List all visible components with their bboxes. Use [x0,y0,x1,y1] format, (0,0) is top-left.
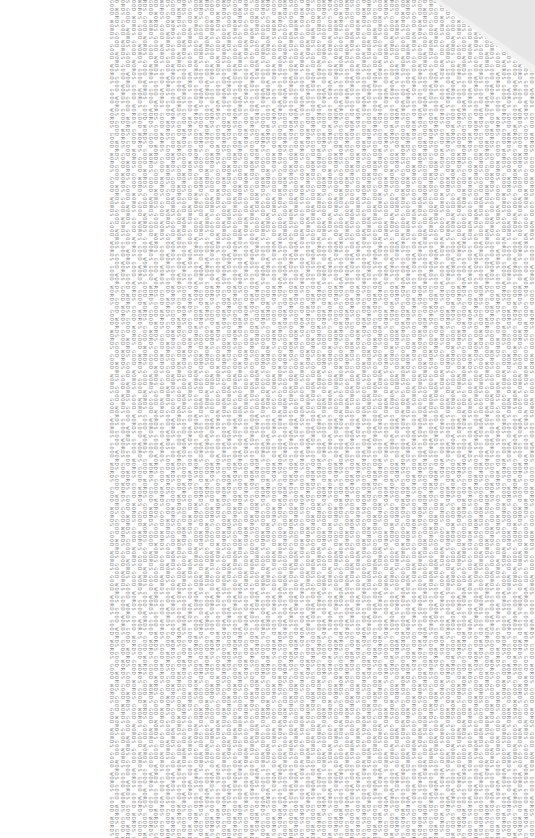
text-column: D WORDS GOOD WORDS GOOD WORDS GOOD WORDS… [298,0,304,838]
text-column: WORDS GOOD WORDS GOOD WORDS GOOD WORDS G… [382,0,388,838]
text-column: D WORDS GOOD WORDS GOOD WORDS GOOD WORDS… [114,0,120,838]
text-column: DS GOOD WORDS GOOD WORDS GOOD WORDS GOOD… [226,0,232,838]
text-column: RDS GOOD WORDS GOOD WORDS GOOD WORDS GOO… [450,0,456,838]
text-column: WORDS GOOD WORDS GOOD WORDS GOOD WORDS G… [282,0,288,838]
text-column: OOD WORDS GOOD WORDS GOOD WORDS GOOD WOR… [130,0,136,838]
text-column: OD WORDS GOOD WORDS GOOD WORDS GOOD WORD… [214,0,220,838]
text-column: RDS GOOD WORDS GOOD WORDS GOOD WORDS GOO… [326,0,332,838]
document-page: GOOD WORDS GOOD WORDS GOOD WORDS GOOD WO… [0,0,535,838]
text-column: S GOOD WORDS GOOD WORDS GOOD WORDS GOOD … [494,0,500,838]
text-column: OD WORDS GOOD WORDS GOOD WORDS GOOD WORD… [522,0,528,838]
text-column: RDS GOOD WORDS GOOD WORDS GOOD WORDS GOO… [142,0,148,838]
text-column: S GOOD WORDS GOOD WORDS GOOD WORDS GOOD … [310,0,316,838]
text-column: WORDS GOOD WORDS GOOD WORDS GOOD WORDS G… [198,0,204,838]
text-column: OOD WORDS GOOD WORDS GOOD WORDS GOOD WOR… [254,0,260,838]
text-column: S GOOD WORDS GOOD WORDS GOOD WORDS GOOD … [186,0,192,838]
text-column: OOD WORDS GOOD WORDS GOOD WORDS GOOD WOR… [438,0,444,838]
text-column: ORDS GOOD WORDS GOOD WORDS GOOD WORDS GO… [242,0,248,838]
text-column: GOOD WORDS GOOD WORDS GOOD WORDS GOOD WO… [478,0,484,838]
text-column: WORDS GOOD WORDS GOOD WORDS GOOD WORDS G… [528,0,534,838]
text-column: OD WORDS GOOD WORDS GOOD WORDS GOOD WORD… [338,0,344,838]
text-column: GOOD WORDS GOOD WORDS GOOD WORDS GOOD WO… [354,0,360,838]
text-column: DS GOOD WORDS GOOD WORDS GOOD WORDS GOOD… [410,0,416,838]
rotated-text-block: GOOD WORDS GOOD WORDS GOOD WORDS GOOD WO… [108,0,535,838]
text-column: GOOD WORDS GOOD WORDS GOOD WORDS GOOD WO… [394,0,400,838]
text-column: WORDS GOOD WORDS GOOD WORDS GOOD WORDS G… [158,0,164,838]
text-column: GOOD WORDS GOOD WORDS GOOD WORDS GOOD WO… [270,0,276,838]
text-column: GOOD WORDS GOOD WORDS GOOD WORDS GOOD WO… [170,0,176,838]
text-column: ORDS GOOD WORDS GOOD WORDS GOOD WORDS GO… [366,0,372,838]
text-column: D WORDS GOOD WORDS GOOD WORDS GOOD WORDS… [422,0,428,838]
text-column: WORDS GOOD WORDS GOOD WORDS GOOD WORDS G… [506,0,512,838]
text-column: WORDS GOOD WORDS GOOD WORDS GOOD WORDS G… [466,0,472,838]
